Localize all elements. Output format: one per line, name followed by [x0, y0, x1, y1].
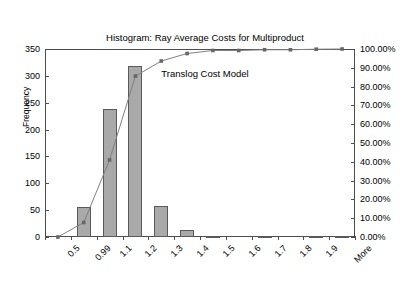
x-axis-tick-label: 1.2 — [143, 243, 159, 259]
cumulative-line-marker — [340, 47, 344, 51]
cumulative-line-marker — [134, 74, 138, 78]
y-axis-right-tick-label: 30.00% — [360, 176, 391, 186]
y-axis-right-tick-label: 70.00% — [360, 100, 391, 110]
plot-area: Frequency 050100150200250300350 0.00%10.… — [45, 49, 355, 237]
y-axis-tick-label: 250 — [25, 98, 40, 108]
cumulative-line-marker — [82, 221, 86, 225]
y-axis-right-tick-label: 40.00% — [360, 157, 391, 167]
cumulative-line-marker — [314, 47, 318, 51]
cumulative-line-marker — [263, 48, 267, 52]
y-axis-tick-label: 50 — [30, 205, 40, 215]
y-axis-right-tick-label: 60.00% — [360, 119, 391, 129]
y-axis-right-tick-label: 80.00% — [360, 82, 391, 92]
y-axis-tick-label: 150 — [25, 151, 40, 161]
x-axis-tick-label: 0.5 — [66, 243, 82, 259]
cumulative-line-marker — [108, 158, 112, 162]
x-axis-tick-label: 1.8 — [298, 243, 314, 259]
chart-title-line-1: Histogram: Ray Average Costs for Multipr… — [0, 32, 410, 44]
y-axis-right-tick-label: 0.00% — [360, 232, 386, 242]
y-axis-right-tick-label: 100.00% — [360, 44, 396, 54]
y-axis-tick-label: 100 — [25, 178, 40, 188]
y-axis-right-tick-label: 10.00% — [360, 213, 391, 223]
x-axis-tick-label: 1.7 — [272, 243, 288, 259]
x-axis-tick-label: 1.5 — [221, 243, 237, 259]
cumulative-line-marker — [289, 48, 293, 52]
y-axis-right-tick-label: 90.00% — [360, 63, 391, 73]
x-axis-tick-label: 1.3 — [169, 243, 185, 259]
x-axis-tick-label: 1.4 — [195, 243, 211, 259]
x-axis-tick-label: 1.1 — [117, 243, 133, 259]
x-axis-tick-label: 1.6 — [246, 243, 262, 259]
y-axis-tick-label: 200 — [25, 125, 40, 135]
cumulative-line-marker — [159, 59, 163, 63]
y-axis-right-tick-label: 20.00% — [360, 194, 391, 204]
x-axis-tick-label: 1.9 — [324, 243, 340, 259]
cumulative-line-marker — [211, 49, 215, 53]
cumulative-line-series — [45, 49, 355, 237]
cumulative-line-marker — [237, 49, 241, 53]
histogram-chart: Histogram: Ray Average Costs for Multipr… — [0, 0, 410, 284]
y-axis-right-tick-label: 50.00% — [360, 138, 391, 148]
x-axis-tick-label: More — [352, 243, 374, 265]
y-axis-tick-label: 300 — [25, 71, 40, 81]
x-axis-tick-mark — [355, 236, 356, 240]
y-axis-tick-label: 0 — [35, 232, 40, 242]
cumulative-line-marker — [56, 235, 60, 239]
x-axis-tick-label: 0.99 — [93, 243, 112, 262]
cumulative-line-marker — [185, 52, 189, 56]
y-axis-tick-label: 350 — [25, 44, 40, 54]
cumulative-line-path — [58, 49, 342, 237]
